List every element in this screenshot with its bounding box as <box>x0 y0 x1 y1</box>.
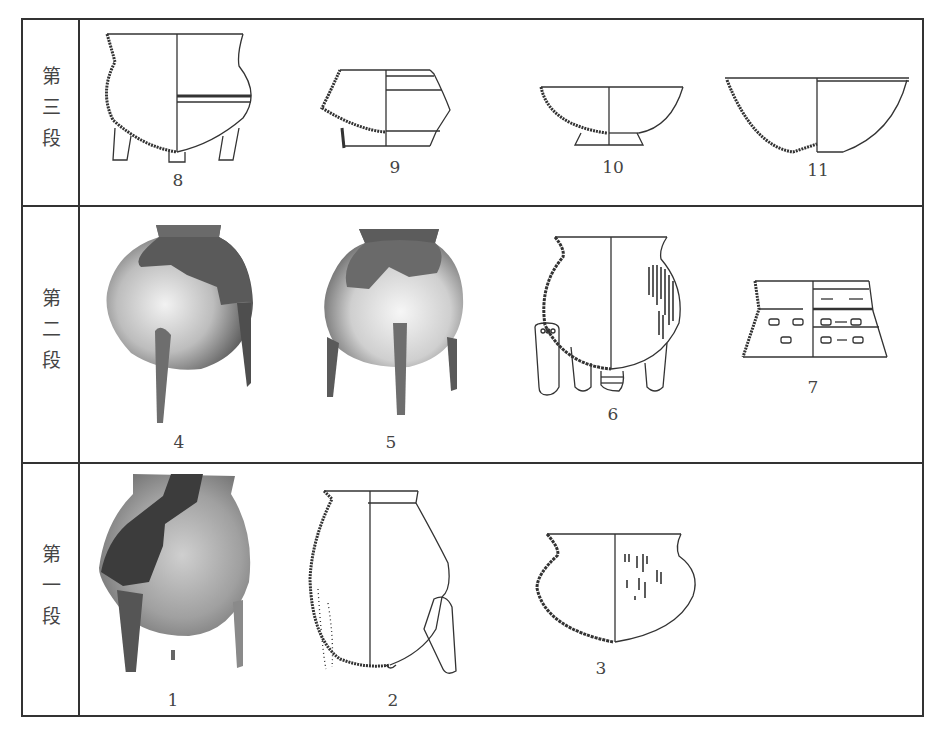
figure-7-vessel-fragment-drawing <box>741 279 891 363</box>
row-stage-2: 第二段 4 <box>23 207 922 464</box>
figure-6-tripod-jar-drawing <box>535 235 685 395</box>
figure-number-8: 8 <box>158 170 198 190</box>
figure-5-tripod-jar-photo <box>319 227 469 421</box>
figure-number-2: 2 <box>373 690 413 710</box>
figure-number-4: 4 <box>159 432 199 452</box>
stage-label: 第二段 <box>37 288 64 381</box>
row-stage-1: 第一段 1 <box>23 464 922 717</box>
figure-number-9: 9 <box>375 157 415 177</box>
figure-2-globular-jar-drawing <box>306 489 486 679</box>
stage-label: 第三段 <box>37 66 64 159</box>
stage-label-cell: 第三段 <box>23 20 80 205</box>
figure-4-tripod-jar-photo <box>101 223 261 427</box>
figure-1-tripod-jar-photo <box>93 472 263 676</box>
figure-3-round-bottom-jar-drawing <box>533 532 697 652</box>
stage-label-cell: 第一段 <box>23 464 80 717</box>
figure-10-ring-foot-bowl-drawing <box>539 85 689 149</box>
figure-8-tripod-jar-drawing <box>103 32 253 162</box>
stage-label: 第一段 <box>37 544 64 637</box>
pottery-typology-plate: 第三段 8 <box>21 18 924 717</box>
figure-number-7: 7 <box>793 377 833 397</box>
stage-label-cell: 第二段 <box>23 207 80 462</box>
figure-number-5: 5 <box>371 432 411 452</box>
figure-number-11: 11 <box>798 160 838 180</box>
row-stage-3: 第三段 8 <box>23 20 922 207</box>
figure-number-10: 10 <box>593 157 633 177</box>
figure-9-carinated-jar-drawing <box>318 68 468 152</box>
figure-number-6: 6 <box>593 404 633 424</box>
figure-11-bowl-drawing <box>723 76 913 156</box>
figure-number-1: 1 <box>153 690 193 710</box>
figure-number-3: 3 <box>581 658 621 678</box>
